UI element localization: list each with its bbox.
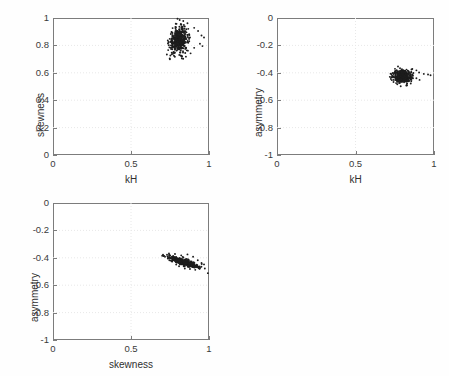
y-tick-label: 0 [19, 150, 49, 160]
x-tick-mark [209, 151, 210, 155]
y-tick-label: -1 [243, 150, 273, 160]
x-tick-label: 1 [206, 159, 211, 169]
x-tick-mark [53, 151, 54, 155]
y-tick-mark [53, 73, 57, 74]
y-tick-mark [53, 155, 57, 156]
y-tick-mark [277, 155, 281, 156]
x-tick-label: 0 [50, 159, 55, 169]
x-tick-mark [277, 151, 278, 155]
y-tick-label: 0 [243, 13, 273, 23]
x-tick-mark [131, 151, 132, 155]
x-tick-label: 0.5 [124, 344, 137, 354]
y-tick-mark [277, 100, 281, 101]
x-tick-mark [434, 151, 435, 155]
y-tick-mark [53, 340, 57, 341]
y-tick-mark [53, 230, 57, 231]
x-tick-mark [209, 336, 210, 340]
y-tick-mark [53, 45, 57, 46]
y-tick-mark [277, 128, 281, 129]
x-tick-label: 0 [50, 344, 55, 354]
y-axis-label: skewness [0, 82, 91, 92]
x-tick-label: 0.5 [124, 159, 137, 169]
y-tick-mark [53, 258, 57, 259]
y-tick-mark [277, 45, 281, 46]
y-tick-mark [53, 128, 57, 129]
x-tick-mark [356, 151, 357, 155]
y-tick-mark [277, 73, 281, 74]
x-tick-label: 0.5 [349, 159, 362, 169]
x-tick-label: 0 [274, 159, 279, 169]
y-tick-mark [53, 18, 57, 19]
x-axis-label: skewness [109, 360, 153, 370]
y-axis-label-text: asymmetry [30, 222, 40, 322]
x-axis-label: kH [349, 175, 361, 185]
panel-skewness-vs-kh: 00.20.40.60.81 00.51 kH skewness [53, 18, 209, 155]
y-axis-label: asymmetry [209, 82, 309, 92]
y-tick-mark [277, 18, 281, 19]
panel-asymmetry-vs-skewness: -1-0.8-0.6-0.4-0.20 00.51 skewness asymm… [53, 203, 209, 340]
y-tick-mark [53, 203, 57, 204]
y-axis-label: asymmetry [0, 267, 85, 277]
panel-asymmetry-vs-kh: -1-0.8-0.6-0.4-0.20 00.51 kH asymmetry [277, 18, 434, 155]
y-axis-label-text: skewness [36, 37, 46, 137]
x-tick-mark [53, 336, 54, 340]
y-tick-label: 1 [19, 13, 49, 23]
y-tick-label: 0 [19, 198, 49, 208]
y-tick-mark [53, 313, 57, 314]
x-tick-mark [131, 336, 132, 340]
y-tick-mark [53, 285, 57, 286]
y-tick-mark [53, 100, 57, 101]
figure-canvas: 00.20.40.60.81 00.51 kH skewness -1-0.8-… [0, 0, 449, 376]
x-tick-label: 1 [431, 159, 436, 169]
y-axis-label-text: asymmetry [254, 37, 264, 137]
y-tick-label: -1 [19, 335, 49, 345]
x-axis-label: kH [125, 175, 137, 185]
x-tick-label: 1 [206, 344, 211, 354]
